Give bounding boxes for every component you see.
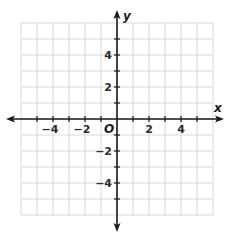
y-tick-label: 2 [104, 81, 112, 94]
x-tick-label: 2 [145, 123, 153, 136]
x-tick-label: −2 [74, 123, 91, 136]
origin-label: O [104, 122, 114, 136]
x-tick-label: −4 [42, 123, 59, 136]
y-axis-label: y [123, 9, 132, 23]
y-tick-label: 4 [104, 49, 112, 62]
coordinate-plane: −4−22442−2−4 x y O [0, 0, 230, 240]
y-tick-label: −2 [95, 145, 112, 158]
x-axis-label: x [213, 101, 223, 115]
x-tick-label: 4 [177, 123, 185, 136]
y-tick-label: −4 [95, 177, 112, 190]
